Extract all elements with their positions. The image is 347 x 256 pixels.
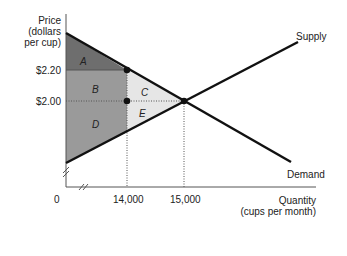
region-d-label: D: [92, 119, 99, 130]
x-title-line: Quantity: [230, 195, 316, 206]
x-tick-15000: 15,000: [170, 194, 201, 205]
equilibrium-point: [181, 98, 188, 105]
y-title-line: per cup): [10, 37, 61, 48]
x-tick-14000: 14,000: [113, 194, 144, 205]
y-tick-220: $2.20: [20, 65, 61, 76]
x-tick-0: 0: [54, 194, 60, 205]
point-14000-200: [124, 98, 131, 105]
region-e-label: E: [139, 108, 146, 119]
region-a-label: A: [80, 56, 87, 67]
point-14000-220: [124, 67, 131, 74]
region-c-label: C: [141, 87, 148, 98]
x-title-line: (cups per month): [230, 206, 316, 217]
region-d: [66, 101, 127, 163]
demand-label: Demand: [287, 169, 325, 180]
region-b-label: B: [92, 84, 99, 95]
supply-label: Supply: [296, 31, 327, 42]
y-title-line: (dollars: [10, 26, 61, 37]
x-axis-title: Quantity (cups per month): [230, 195, 316, 217]
y-tick-200: $2.00: [20, 96, 61, 107]
y-axis-title: Price (dollars per cup): [10, 15, 61, 48]
y-title-line: Price: [10, 15, 61, 26]
